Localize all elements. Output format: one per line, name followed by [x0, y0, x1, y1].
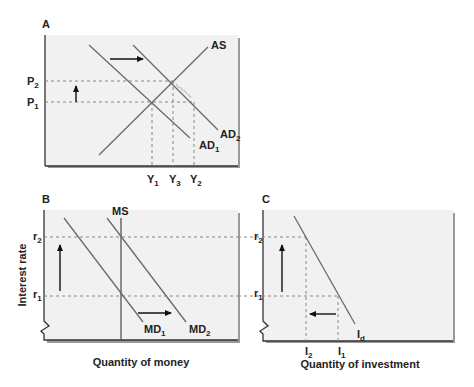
r1-label-c: r1 [254, 287, 263, 302]
ms-label: MS [112, 205, 129, 217]
panel-c-bg [263, 210, 453, 341]
p2-label: P2 [27, 75, 39, 90]
panel-b: B MS MD1 MD2 r2 r1 Interest rate Quantit… [16, 193, 240, 368]
p1-label: P1 [27, 96, 39, 111]
panel-a-label: A [42, 18, 50, 30]
r2-label-b: r2 [33, 230, 42, 245]
r2-label-c: r2 [254, 230, 263, 245]
y1-label: Y1 [147, 173, 159, 188]
as-label: AS [211, 39, 226, 51]
quantity-of-investment-label: Quantity of investment [300, 358, 420, 370]
panel-c-label: C [262, 193, 270, 205]
r1-label-b: r1 [33, 288, 42, 303]
quantity-of-money-label: Quantity of money [93, 356, 190, 368]
y2-label: Y2 [190, 173, 202, 188]
panel-a: A AS AD2 AD1 P2 P1 Y1 Y3 Y2 [27, 18, 241, 188]
panel-c: C Id r2 r1 I2 I1 Quantity of investment [238, 193, 455, 370]
diagram-canvas: A AS AD2 AD1 P2 P1 Y1 Y3 Y2 [0, 0, 474, 387]
panel-b-label: B [42, 193, 50, 205]
interest-rate-axis-label: Interest rate [16, 244, 28, 307]
y3-label: Y3 [169, 173, 181, 188]
